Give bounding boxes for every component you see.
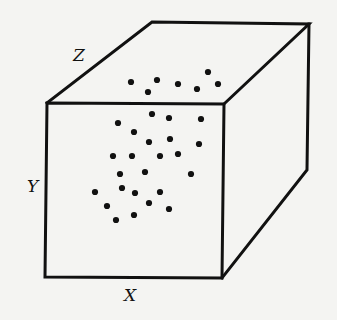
scatter-point: [196, 141, 202, 147]
scatter-point: [128, 79, 134, 85]
axis-label-x: X: [124, 287, 136, 304]
scatter-point: [131, 129, 137, 135]
scatter-point: [145, 89, 151, 95]
scatter-point: [205, 69, 211, 75]
box-right-face: [222, 24, 309, 278]
axis-label-y: Y: [27, 178, 38, 195]
scatter-point: [175, 81, 181, 87]
scatter-point: [146, 139, 152, 145]
scatter-point: [188, 171, 194, 177]
box-top-face: [47, 22, 309, 104]
scatter-point: [157, 189, 163, 195]
scatter-point: [146, 200, 152, 206]
scatter-point: [154, 77, 160, 83]
scatter-point: [104, 203, 110, 209]
scatter-point: [215, 81, 221, 87]
scatter-point: [149, 111, 155, 117]
axis-label-z: Z: [73, 47, 85, 64]
scatter-point: [198, 116, 204, 122]
scatter-point: [166, 115, 172, 121]
scatter-point: [175, 151, 181, 157]
diagram-stage: Z Y X: [0, 0, 337, 320]
scatter-point: [194, 86, 200, 92]
scatter-point: [132, 190, 138, 196]
scatter-point: [113, 217, 119, 223]
scatter-point: [129, 153, 135, 159]
scatter-point: [157, 153, 163, 159]
scatter-point: [142, 169, 148, 175]
scatter-point: [115, 120, 121, 126]
scatter-point: [131, 212, 137, 218]
scatter-point: [92, 189, 98, 195]
box-diagram: [0, 0, 337, 320]
scatter-point: [110, 153, 116, 159]
scatter-point: [167, 136, 173, 142]
scatter-point: [166, 206, 172, 212]
scatter-points: [92, 69, 221, 223]
scatter-point: [119, 185, 125, 191]
scatter-point: [117, 171, 123, 177]
